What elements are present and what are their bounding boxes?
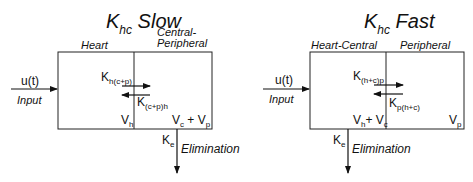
right-k-backward-k: K [389, 96, 397, 110]
left-k-backward: K(c+p)h [137, 95, 168, 111]
right-k-forward-k: K [353, 69, 361, 83]
right-title: Khc Fast [364, 10, 435, 37]
left-k-backward-sub: (c+p)h [145, 102, 168, 111]
left-v-cp: Vc + Vp [172, 113, 210, 129]
right-v-c-sub: c [384, 120, 388, 129]
left-v-heart-v: V [121, 113, 129, 127]
right-k-elim-k: K [333, 133, 341, 147]
right-k-elim-sub: e [341, 140, 345, 149]
right-v-c: V [376, 113, 384, 127]
right-title-sub: hc [377, 23, 390, 37]
right-title-word: Fast [396, 10, 435, 32]
left-plus: + [184, 113, 198, 127]
left-input-label: Input [17, 94, 41, 106]
right-heart-central-label: Heart-Central [311, 39, 377, 51]
left-k-forward-k: K [101, 70, 109, 84]
right-input-label: Input [269, 93, 293, 105]
left-k-forward-sub: h(c+p) [109, 77, 132, 86]
left-k-elim-sub: e [170, 140, 174, 149]
left-cp-line2: Peripheral [157, 37, 207, 49]
right-k-backward-sub: p(h+c) [397, 103, 420, 112]
right-elim-label: Elimination [352, 142, 411, 156]
right-v-hc: Vh+ Vc [353, 113, 388, 129]
left-title-sub: hc [119, 23, 132, 37]
right-title-k: K [364, 10, 377, 32]
left-elim-label: Elimination [181, 142, 240, 156]
left-title-k: K [106, 10, 119, 32]
left-k-forward: Kh(c+p) [101, 70, 132, 86]
left-v-p-sub: p [206, 120, 210, 129]
left-k-backward-k: K [137, 95, 145, 109]
left-k-elim-k: K [162, 133, 170, 147]
left-central-peripheral-label: Central- Peripheral [157, 27, 207, 49]
left-v-c: V [172, 113, 180, 127]
right-k-forward: K(h+c)p [353, 69, 384, 85]
left-v-heart: Vh [121, 113, 133, 129]
left-input-signal: u(t) [21, 74, 39, 88]
left-v-p: V [198, 113, 206, 127]
left-k-elim: Ke [162, 133, 174, 149]
right-peripheral-label: Peripheral [400, 39, 450, 51]
right-k-elim: Ke [333, 133, 345, 149]
right-plus: + [365, 113, 375, 127]
right-v-h: V [353, 113, 361, 127]
left-heart-label: Heart [81, 39, 108, 51]
right-v-p-v: V [449, 113, 457, 127]
right-input-signal: u(t) [275, 73, 293, 87]
right-k-backward: Kp(h+c) [389, 96, 420, 112]
left-v-heart-sub: h [129, 120, 133, 129]
right-v-p-sub: p [457, 120, 461, 129]
right-k-forward-sub: (h+c)p [361, 76, 384, 85]
right-v-p: Vp [449, 113, 461, 129]
